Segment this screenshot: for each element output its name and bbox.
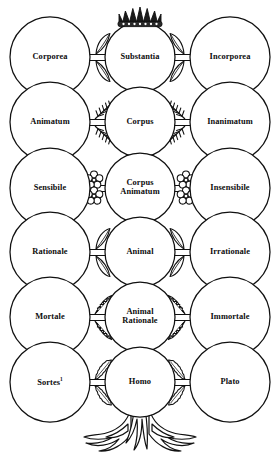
node-circle-center — [105, 347, 175, 417]
node-circle-center — [105, 22, 175, 92]
node-circle-center — [105, 217, 175, 287]
tree-graphic — [0, 0, 275, 463]
node-circle-right — [190, 342, 270, 422]
porphyry-tree-diagram: Corporea Substantia Incorporea Animatum … — [0, 0, 275, 463]
node-circles — [10, 17, 270, 422]
node-circle-center — [105, 87, 175, 157]
node-circle-center — [105, 153, 175, 223]
crown-icon — [118, 7, 162, 27]
node-circle-left — [10, 342, 90, 422]
node-circle-center — [105, 282, 175, 352]
